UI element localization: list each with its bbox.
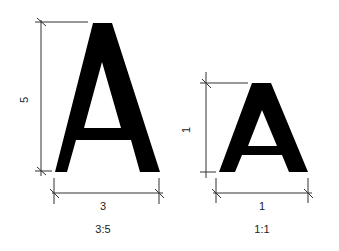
- left-figure: 5 3 3:5: [18, 18, 164, 235]
- right-figure: 1 1 1:1: [180, 72, 313, 235]
- proportion-diagram: 5 3 3:5 1 1 1:1: [0, 0, 339, 251]
- ratio-label: 1:1: [254, 223, 269, 235]
- letter-a-square: [219, 83, 308, 172]
- height-label: 1: [180, 127, 192, 133]
- width-label: 3: [100, 200, 106, 212]
- ratio-label: 3:5: [95, 223, 110, 235]
- letter-a-narrow: [55, 23, 160, 172]
- width-dimension: [50, 178, 164, 204]
- width-label: 1: [259, 200, 265, 212]
- height-label: 5: [18, 97, 30, 103]
